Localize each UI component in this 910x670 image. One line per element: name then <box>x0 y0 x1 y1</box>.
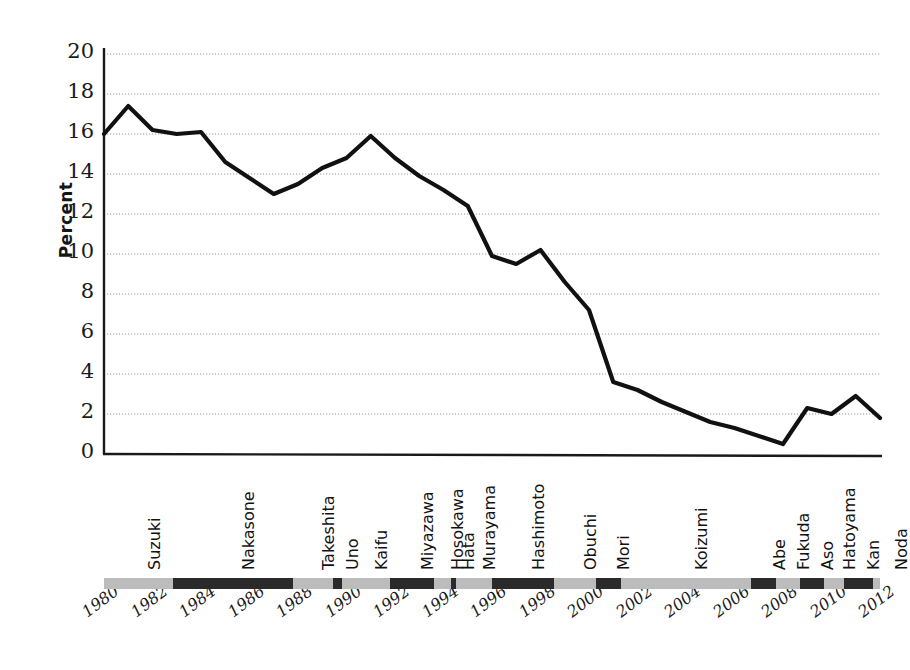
pm-label-obuchi: Obuchi <box>581 514 600 570</box>
pm-label-aso: Aso <box>818 541 837 570</box>
pm-label-murayama: Murayama <box>480 485 499 570</box>
pm-label-mori: Mori <box>614 535 633 570</box>
prime-minister-labels: SuzukiNakasoneTakeshitaUnoKaifuMiyazawaH… <box>0 0 910 670</box>
pm-label-miyazawa: Miyazawa <box>418 491 437 570</box>
pm-label-nakasone: Nakasone <box>239 491 258 570</box>
pm-label-suzuki: Suzuki <box>145 517 164 570</box>
pm-label-hata: Hata <box>459 532 478 570</box>
pm-label-abe: Abe <box>770 539 789 570</box>
pm-label-hashimoto: Hashimoto <box>529 484 548 570</box>
pm-label-takeshita: Takeshita <box>319 496 338 570</box>
chart-root: Percent 20181614121086420 19801982198419… <box>0 0 910 670</box>
pm-label-koizumi: Koizumi <box>692 508 711 571</box>
pm-label-uno: Uno <box>343 538 362 570</box>
pm-label-kan: Kan <box>864 540 883 570</box>
pm-label-kaifu: Kaifu <box>372 530 391 570</box>
pm-label-fukuda: Fukuda <box>794 513 813 570</box>
pm-label-hatoyama: Hatoyama <box>840 487 859 570</box>
pm-label-noda: Noda <box>892 528 910 570</box>
